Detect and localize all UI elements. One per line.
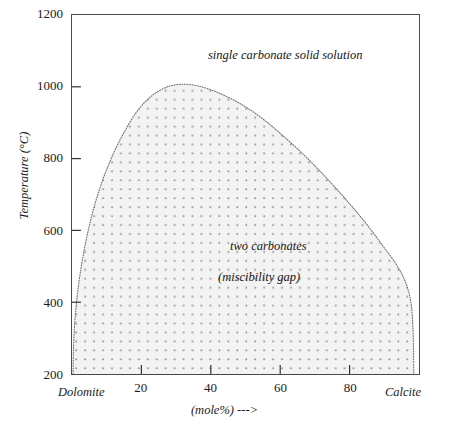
phase-diagram-figure: single carbonate solid solution two carb… — [0, 0, 449, 426]
annotation-miscibility-gap: (miscibility gap) — [218, 270, 300, 285]
y-tick-label-1200: 1200 — [21, 6, 63, 22]
x-tick-label-20: 20 — [121, 380, 161, 396]
y-tick-label-400: 400 — [21, 295, 63, 311]
miscibility-gap-region — [73, 84, 414, 374]
solvus-plot — [72, 15, 419, 374]
x-tick-label-60: 60 — [260, 380, 300, 396]
plot-area: single carbonate solid solution two carb… — [71, 14, 420, 375]
endmember-label-dolomite: Dolomite — [58, 385, 105, 400]
x-axis-title: (mole%) ---> — [0, 403, 449, 418]
y-axis-title: Temperature (°C) — [17, 111, 32, 241]
x-tick-label-40: 40 — [191, 380, 231, 396]
y-tick-label-1000: 1000 — [21, 78, 63, 94]
x-tick-label-80: 80 — [330, 380, 370, 396]
annotation-two-carbonates: two carbonates — [230, 239, 307, 254]
annotation-single-carbonate: single carbonate solid solution — [208, 48, 363, 63]
endmember-label-calcite: Calcite — [385, 385, 421, 400]
y-tick-label-200: 200 — [21, 367, 63, 383]
